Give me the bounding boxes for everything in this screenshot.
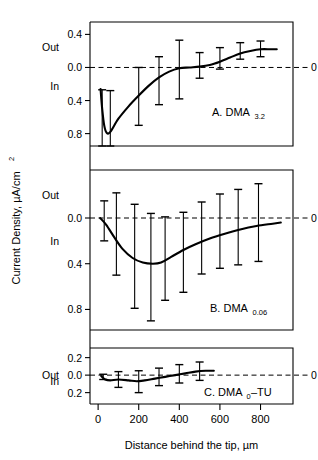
out-label-B: Out [42, 189, 59, 201]
xtick-label-2: 400 [170, 413, 188, 425]
error-bars-C [99, 362, 203, 393]
zero-right-label-B: 0 [311, 212, 317, 224]
in-label-B: In [50, 235, 59, 247]
panel-label-sub-B: 0.06 [253, 308, 268, 317]
ytick-label-A-1: 0.0 [67, 61, 82, 73]
ytick-label-C-2: 0.2 [67, 387, 82, 399]
panel-A: 00.40.00.40.8OutInA. DMA3.2 [42, 22, 317, 146]
ytick-label-C-0: 0.2 [67, 352, 82, 364]
ytick-label-B-2: 0.8 [67, 303, 82, 315]
panel-label-B: B. DMA0.06 [210, 302, 267, 317]
y-axis-title-text: Current Density, µA/cm [10, 171, 22, 284]
ytick-label-A-0: 0.4 [67, 28, 82, 40]
zero-right-label-C: 0 [311, 369, 317, 381]
panel-frame-B [90, 170, 293, 330]
panel-label-C: C. DMA0–TU [204, 386, 272, 401]
chart-svg: 00.40.00.40.8OutInA. DMA3.200.00.40.8Out… [0, 0, 318, 460]
data-curve-A [101, 49, 277, 134]
xtick-label-4: 800 [251, 413, 269, 425]
x-axis-title: Distance behind the tip, µm [125, 439, 259, 451]
x-axis: 0200400600800 [95, 404, 270, 425]
panel-label-tail-C: –TU [251, 386, 272, 398]
ytick-label-B-1: 0.4 [67, 258, 82, 270]
y-axis-title: Current Density, µA/cm2 [7, 157, 22, 285]
y-axis-title-superscript: 2 [7, 157, 16, 161]
ytick-label-A-3: 0.8 [67, 128, 82, 140]
figure-container: 00.40.00.40.8OutInA. DMA3.200.00.40.8Out… [0, 0, 318, 460]
panel-label-sub-A: 3.2 [255, 112, 265, 121]
xtick-label-3: 600 [211, 413, 229, 425]
error-bars-A [98, 40, 264, 146]
in-label-C: In [50, 375, 59, 387]
in-label-A: In [50, 80, 59, 92]
xtick-label-1: 200 [130, 413, 148, 425]
panel-C: 00.20.00.2OutInC. DMA0–TU [42, 348, 317, 404]
panel-label-text-A: A. DMA [212, 106, 251, 118]
panel-label-A: A. DMA3.2 [212, 106, 265, 121]
xtick-label-0: 0 [95, 413, 101, 425]
ytick-label-B-0: 0.0 [67, 212, 82, 224]
ytick-label-C-1: 0.0 [67, 369, 82, 381]
panel-B: 00.00.40.8OutInB. DMA0.06 [42, 170, 317, 330]
data-curve-B [100, 218, 281, 264]
panel-label-text-C: C. DMA [204, 386, 243, 398]
panel-label-text-B: B. DMA [210, 302, 249, 314]
ytick-label-A-2: 0.4 [67, 95, 82, 107]
out-label-A: Out [42, 41, 59, 53]
zero-right-label-A: 0 [311, 61, 317, 73]
